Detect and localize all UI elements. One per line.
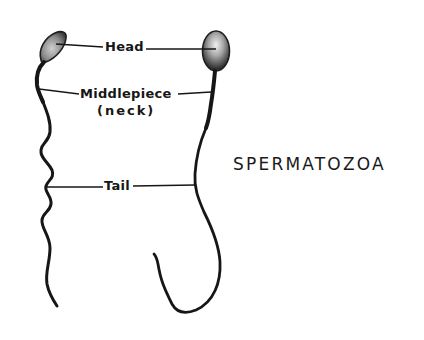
tail-left xyxy=(41,102,57,306)
middlepiece-leader-right xyxy=(178,92,211,94)
label-neck: (neck) xyxy=(97,103,155,119)
tail-right xyxy=(154,128,220,312)
sperm-face-view xyxy=(154,31,230,312)
middlepiece-leader-left xyxy=(39,89,79,94)
diagram-title: SPERMATOZOA xyxy=(233,154,386,174)
label-head: Head xyxy=(105,39,144,55)
middlepiece-right xyxy=(206,71,215,128)
sperm-side-view xyxy=(37,32,66,306)
head-left xyxy=(40,32,66,63)
middlepiece-left xyxy=(37,62,44,102)
tail-leader-right xyxy=(133,185,195,186)
head-right xyxy=(203,31,230,71)
label-middlepiece: Middlepiece xyxy=(80,86,172,102)
label-tail: Tail xyxy=(104,178,130,194)
